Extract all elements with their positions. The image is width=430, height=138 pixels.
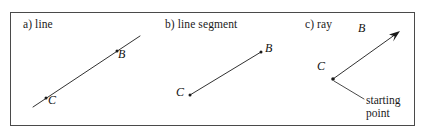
starting-point-line1: starting — [366, 94, 401, 107]
starting-point-annotation: starting point — [366, 94, 401, 120]
panel-caption-ray: c) ray — [305, 18, 332, 30]
point-label-c-b: B — [358, 21, 365, 36]
geometry-figure: a) line b) line segment c) ray B C B C B… — [0, 0, 430, 138]
point-label-a-b: B — [118, 47, 125, 62]
point-label-b-b: B — [265, 41, 272, 56]
point-label-b-c: C — [176, 85, 184, 100]
point-label-a-c: C — [48, 93, 56, 108]
starting-point-line2: point — [366, 107, 401, 120]
point-label-c-c: C — [317, 59, 325, 74]
panel-caption-line-segment: b) line segment — [165, 18, 237, 30]
panel-caption-line: a) line — [23, 18, 53, 30]
